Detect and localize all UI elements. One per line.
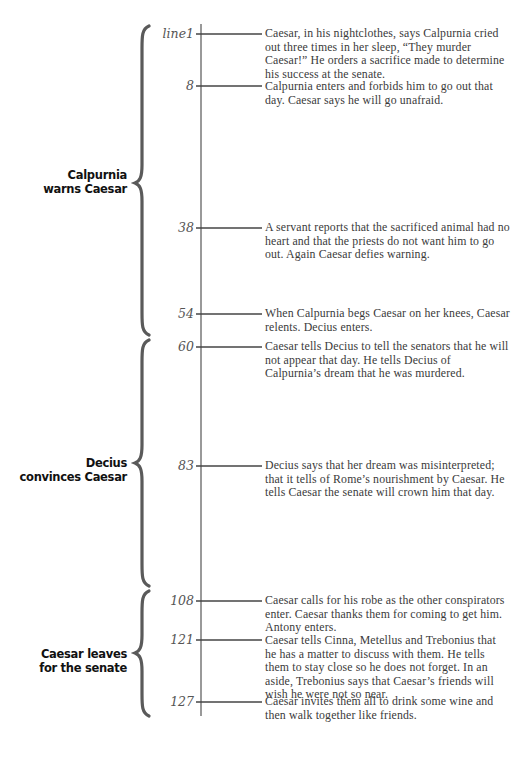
scene-label-calpurnia-warns: Calpurnia warns Caesar — [43, 169, 127, 196]
timeline-ticks — [196, 34, 262, 702]
event-description: A servant reports that the sacrificed an… — [265, 221, 510, 262]
event-description: Caesar invites them all to drink some wi… — [265, 695, 510, 722]
scene-label-line: warns Caesar — [43, 183, 127, 197]
scene-label-line: for the senate — [39, 662, 127, 676]
event-description: Caesar, in his nightclothes, says Calpur… — [265, 27, 510, 81]
line-number-label: 54 — [134, 307, 194, 321]
scene-label-line: Calpurnia — [43, 169, 127, 183]
scene-label-line: Decius — [20, 457, 127, 471]
event-description: Decius says that her dream was misinterp… — [265, 459, 510, 500]
line-number-label: 127 — [134, 695, 194, 709]
line-number-label: 83 — [134, 459, 194, 473]
line-number-label: line1 — [134, 27, 194, 41]
scene-label-line: Caesar leaves — [39, 648, 127, 662]
event-description: When Calpurnia begs Caesar on her knees,… — [265, 307, 510, 334]
event-description: Caesar calls for his robe as the other c… — [265, 594, 510, 635]
line-number-label: 60 — [134, 340, 194, 354]
scene-label-caesar-leaves: Caesar leaves for the senate — [39, 648, 127, 675]
scene-label-line: convinces Caesar — [20, 471, 127, 485]
line-number-label: 108 — [134, 594, 194, 608]
event-description: Caesar tells Decius to tell the senators… — [265, 340, 510, 381]
line-number-label: 121 — [134, 633, 194, 647]
scene-label-decius-convinces: Decius convinces Caesar — [20, 457, 127, 484]
line-number-label: 8 — [134, 79, 194, 93]
curly-brace-icon — [135, 26, 149, 335]
event-description: Caesar tells Cinna, Metellus and Treboni… — [265, 634, 510, 702]
scene-braces — [135, 26, 149, 716]
line-number-label: 38 — [134, 221, 194, 235]
timeline-diagram: Calpurnia warns Caesar Decius convinces … — [0, 0, 511, 759]
event-description: Calpurnia enters and forbids him to go o… — [265, 80, 510, 107]
